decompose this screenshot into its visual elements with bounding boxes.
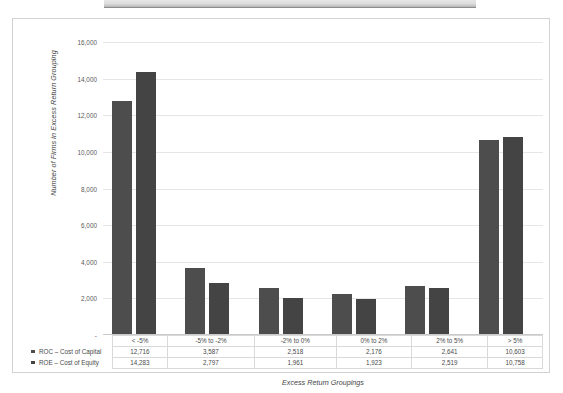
value-cell: 2,641 [412,347,488,358]
value-cell: 14,283 [113,358,168,369]
bar[interactable] [209,283,229,334]
category-label-cell: -2% to 0% [255,336,336,347]
bar[interactable] [136,72,156,334]
legend-entry[interactable]: ROE – Cost of Equity [30,358,113,369]
value-cell: 2,519 [412,358,488,369]
value-cell: 1,961 [255,358,336,369]
bar[interactable] [429,288,449,334]
bar-group [103,41,176,334]
category-label-cell: -5% to -2% [167,336,254,347]
legend-swatch-icon [31,361,35,365]
table-corner-cell [30,336,113,347]
table-header-row: < -5%-5% to -2%-2% to 0%0% to 2%2% to 5%… [30,336,543,347]
y-axis-tick-label: 10,000 [53,148,97,155]
y-axis-tick-label: 16,000 [53,39,97,46]
bar[interactable] [185,268,205,334]
y-axis-tick-label: 2,000 [53,295,97,302]
bar[interactable] [503,137,523,334]
bar-group [323,41,396,334]
bar[interactable] [356,299,376,334]
bar-group [470,41,543,334]
value-cell: 10,758 [488,358,543,369]
chart-data-table-body: < -5%-5% to -2%-2% to 0%0% to 2%2% to 5%… [30,336,543,369]
bar[interactable] [112,101,132,334]
category-label-cell: 0% to 2% [336,336,412,347]
bar[interactable] [259,288,279,334]
value-cell: 2,176 [336,347,412,358]
legend-entry[interactable]: ROC – Cost of Capital [30,347,113,358]
y-axis-tick-labels: 16,00014,00012,00010,0008,0006,0004,0002… [55,41,101,335]
legend-label: ROC – Cost of Capital [39,348,101,355]
y-axis-tick-label: 8,000 [53,185,97,192]
bar[interactable] [332,294,352,334]
value-cell: 1,923 [336,358,412,369]
legend-label: ROE – Cost of Equity [39,359,99,366]
x-axis-title: Excess Return Groupings [103,378,543,387]
bar-group [396,41,469,334]
category-label-cell: 2% to 5% [412,336,488,347]
y-axis-tick-label: 12,000 [53,112,97,119]
y-axis-tick-label: 6,000 [53,222,97,229]
bar[interactable] [479,140,499,334]
bar-group [176,41,249,334]
page-header-strip [104,0,476,7]
category-label-cell: > 5% [488,336,543,347]
value-cell: 2,797 [167,358,254,369]
page-header-rule [104,7,476,8]
bar-group [250,41,323,334]
table-row: ROC – Cost of Capital12,7163,5872,5182,1… [30,347,543,358]
y-axis-tick-label: 14,000 [53,75,97,82]
chart-data-table: < -5%-5% to -2%-2% to 0%0% to 2%2% to 5%… [30,335,543,369]
category-label-cell: < -5% [113,336,168,347]
y-axis-tick-label: 4,000 [53,258,97,265]
bar[interactable] [405,286,425,334]
value-cell: 10,603 [488,347,543,358]
value-cell: 12,716 [113,347,168,358]
legend-swatch-icon [31,350,35,354]
table-row: ROE – Cost of Equity14,2832,7971,9611,92… [30,358,543,369]
chart-frame: Number of Firms in Excess Return Groupin… [12,18,550,373]
bar[interactable] [283,298,303,334]
plot-area [103,41,543,335]
value-cell: 3,587 [167,347,254,358]
value-cell: 2,518 [255,347,336,358]
